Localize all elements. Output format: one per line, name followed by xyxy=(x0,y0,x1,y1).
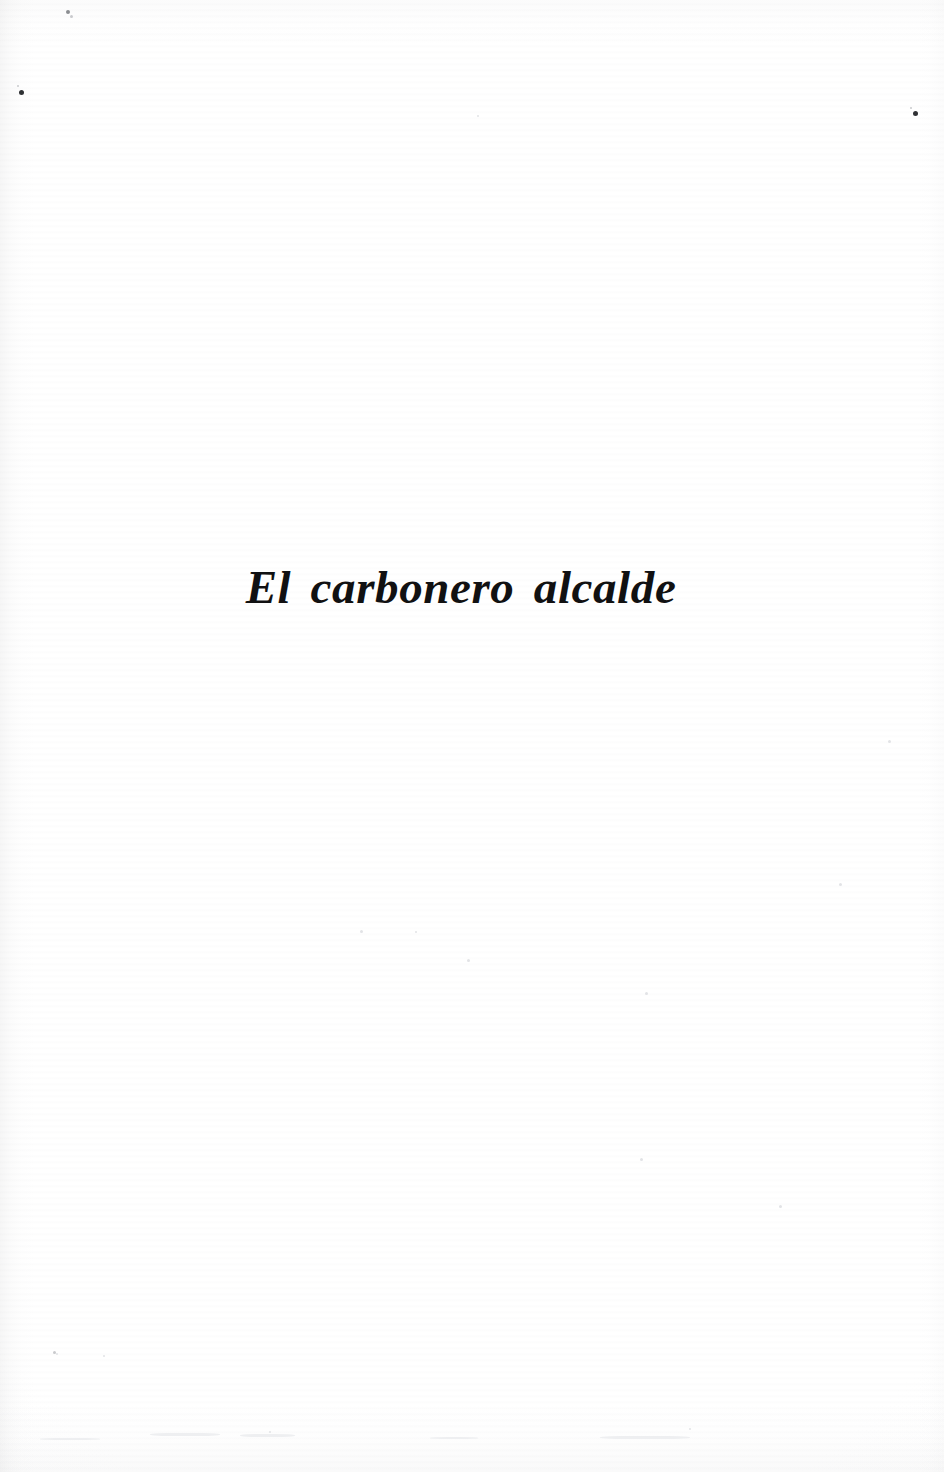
scan-speck xyxy=(913,111,918,116)
scan-smudge xyxy=(240,1434,295,1437)
scan-speck xyxy=(467,959,470,962)
scan-speck xyxy=(66,10,70,14)
scan-speck xyxy=(360,930,363,933)
scan-smudge xyxy=(430,1437,478,1439)
scan-speck xyxy=(17,85,19,87)
scan-speck xyxy=(53,1351,56,1354)
scan-speck xyxy=(910,107,912,109)
page-title: El carbonero alcalde xyxy=(246,564,677,611)
scan-speck xyxy=(56,1353,58,1355)
page-edge-shade-bottom xyxy=(0,1402,944,1472)
scan-speck xyxy=(19,90,24,95)
scan-speck xyxy=(477,115,479,117)
scan-speck xyxy=(645,992,648,995)
scan-streak-texture xyxy=(0,0,944,1472)
page-edge-shade-left xyxy=(0,0,34,1472)
scan-speck xyxy=(70,15,73,18)
scan-speck xyxy=(103,1355,105,1357)
scan-smudge xyxy=(40,1438,100,1440)
title-block: El carbonero alcalde xyxy=(0,533,944,643)
scan-smudge xyxy=(600,1436,690,1439)
scan-speck xyxy=(689,1428,691,1430)
scan-speck xyxy=(779,1205,782,1208)
scan-speck xyxy=(415,931,417,933)
scan-speck xyxy=(839,883,842,886)
page-edge-shade-top xyxy=(0,0,944,46)
scan-speck xyxy=(640,1158,643,1161)
paper-tone-layer xyxy=(0,0,944,1472)
scanned-page: El carbonero alcalde xyxy=(0,0,944,1472)
page-edge-shade-right xyxy=(918,0,944,1472)
scan-speck xyxy=(888,740,891,743)
scan-speck xyxy=(269,1431,271,1433)
scan-smudge xyxy=(150,1433,220,1436)
